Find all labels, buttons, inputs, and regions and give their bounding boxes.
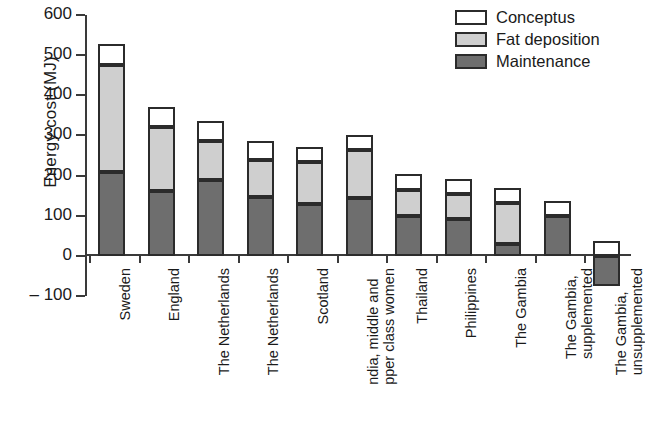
legend-item: Conceptus	[455, 6, 600, 28]
bar-segment-maintenance	[98, 172, 125, 256]
bar-segment-conceptus	[445, 179, 472, 194]
bar-segment-conceptus	[593, 241, 620, 256]
legend-label: Maintenance	[496, 52, 590, 71]
y-axis-tick	[76, 255, 85, 257]
bar-segment-maintenance	[247, 197, 274, 256]
legend-swatch-maintenance	[455, 54, 487, 69]
bar-segment-maintenance	[148, 191, 175, 256]
x-axis-label-line: Philippines	[463, 268, 479, 338]
bar-segment-conceptus	[98, 44, 125, 65]
bar-segment-conceptus	[544, 201, 571, 216]
bar-segment-fat-deposition	[494, 203, 521, 244]
bar-segment-conceptus	[148, 107, 175, 128]
y-axis-tick	[76, 175, 85, 177]
x-axis-label-line: ndia, middle and	[365, 278, 381, 384]
x-axis-label: The Gambia,unsupplemented	[613, 268, 645, 375]
bar-segment-maintenance	[395, 216, 422, 256]
bar-segment-fat-deposition	[98, 65, 125, 171]
bar-segment-conceptus	[494, 188, 521, 202]
bar-group	[197, 15, 224, 296]
x-axis-label: Thailand	[415, 268, 430, 324]
x-axis-label-line: The Gambia,	[613, 291, 629, 375]
y-axis-tick	[76, 295, 85, 297]
y-axis-tick	[76, 134, 85, 136]
x-axis-label: England	[167, 268, 182, 321]
bar-segment-maintenance	[197, 180, 224, 256]
bar-segment-maintenance	[445, 219, 472, 256]
x-axis-label: ndia, middle andpper class women	[365, 268, 397, 385]
legend-label: Conceptus	[496, 8, 575, 27]
bar-segment-fat-deposition	[445, 194, 472, 218]
bar-segment-fat-deposition	[148, 127, 175, 190]
bar-segment-maintenance	[296, 204, 323, 255]
x-axis-label-line: pper class women	[381, 268, 397, 385]
y-axis-tick	[76, 14, 85, 16]
bar-segment-fat-deposition	[247, 160, 274, 197]
bar-segment-fat-deposition	[296, 162, 323, 204]
bar-group	[346, 15, 373, 296]
bar-group	[98, 15, 125, 296]
x-axis-label: The Gambia	[514, 268, 529, 348]
bar-segment-fat-deposition	[395, 190, 422, 216]
legend-item: Fat deposition	[455, 28, 600, 50]
bar-group	[148, 15, 175, 296]
bar-segment-maintenance	[346, 198, 373, 255]
y-axis-tick	[76, 94, 85, 96]
x-axis-label-line: unsupplemented	[629, 268, 645, 375]
x-axis-label-line: The Gambia	[513, 268, 529, 348]
x-axis-label-line: The Netherlands	[216, 268, 232, 375]
legend-item: Maintenance	[455, 50, 600, 72]
x-axis-label: Philippines	[464, 268, 479, 338]
x-axis-label-line: Scotland	[315, 268, 331, 324]
bar-segment-maintenance	[544, 216, 571, 256]
x-axis-label: Scotland	[316, 268, 331, 324]
bar-segment-conceptus	[197, 121, 224, 141]
y-axis-tick-label: 400	[2, 84, 72, 104]
x-axis-label-line: Sweden	[117, 268, 133, 320]
bar-segment-conceptus	[395, 174, 422, 190]
y-axis-tick-label: – 100	[2, 285, 72, 305]
y-axis-tick-label: 500	[2, 44, 72, 64]
y-axis-tick-label: 300	[2, 124, 72, 144]
x-axis-label-line: England	[166, 268, 182, 321]
bar-group	[247, 15, 274, 296]
x-axis-label: Sweden	[118, 268, 133, 320]
y-axis-tick-label: 200	[2, 165, 72, 185]
bar-segment-conceptus	[296, 147, 323, 163]
bar-segment-fat-deposition	[346, 150, 373, 198]
bar-group	[395, 15, 422, 296]
bar-segment-fat-deposition	[197, 141, 224, 180]
legend-swatch-fat	[455, 32, 487, 47]
legend-label: Fat deposition	[496, 30, 600, 49]
x-axis-label-line: The Gambia,	[563, 275, 579, 359]
x-axis-label-line: Thailand	[414, 268, 430, 324]
bar-group	[296, 15, 323, 296]
x-axis-label: The Netherlands	[266, 268, 281, 375]
chart-legend: ConceptusFat depositionMaintenance	[455, 6, 600, 72]
y-axis-tick	[76, 54, 85, 56]
x-axis-label-line: The Netherlands	[265, 268, 281, 375]
legend-swatch-conceptus	[455, 10, 487, 25]
bar-segment-conceptus	[247, 141, 274, 161]
y-axis-tick-label: 600	[2, 4, 72, 24]
x-axis-label: The Gambia,supplemented	[563, 268, 595, 359]
y-axis-tick-label: 100	[2, 205, 72, 225]
bar-segment-conceptus	[346, 135, 373, 151]
y-axis-tick	[76, 215, 85, 217]
bar-segment-maintenance	[494, 244, 521, 256]
x-axis-label: The Netherlands	[217, 268, 232, 375]
x-axis-label-line: supplemented	[579, 268, 595, 359]
y-axis-tick-label: 0	[2, 245, 72, 265]
